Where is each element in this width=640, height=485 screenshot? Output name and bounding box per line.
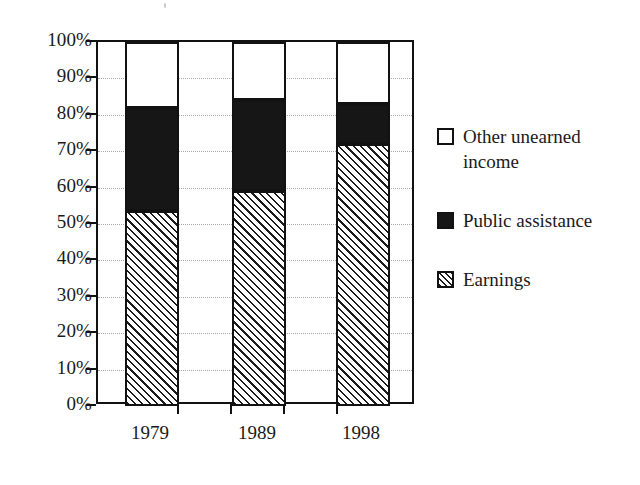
bar-segment-public-assistance-1998 bbox=[336, 104, 390, 144]
chart-legend: Other unearned income Public assistance … bbox=[437, 124, 637, 306]
y-axis-tick-label: 20% bbox=[22, 321, 92, 340]
scan-artifact-speck bbox=[164, 3, 166, 8]
bar-segment-other-unearned-income-1979 bbox=[125, 42, 179, 108]
x-axis-tick-mark bbox=[230, 404, 232, 414]
y-axis-tick-label: 50% bbox=[22, 212, 92, 231]
y-axis-tick-label: 10% bbox=[22, 358, 92, 377]
legend-swatch-earnings-icon bbox=[437, 271, 454, 288]
bar-segment-public-assistance-1979 bbox=[125, 108, 179, 212]
stacked-bar-chart: 100%90%80%70%60%50%40%30%20%10%0% 197919… bbox=[0, 0, 640, 485]
legend-item-earnings[interactable]: Earnings bbox=[437, 267, 637, 292]
bar-segment-earnings-1998 bbox=[336, 144, 390, 406]
y-axis-tick-label: 70% bbox=[22, 139, 92, 158]
x-axis-tick-label: 1989 bbox=[212, 422, 302, 444]
y-axis-tick-mark bbox=[86, 222, 96, 224]
bar-segment-earnings-1989 bbox=[232, 191, 286, 406]
y-axis-tick-mark bbox=[86, 368, 96, 370]
x-axis-tick-mark bbox=[283, 404, 285, 414]
y-axis-tick-mark bbox=[86, 186, 96, 188]
y-axis-tick-label: 0% bbox=[22, 394, 92, 413]
legend-label-other-unearned-income: Other unearned income bbox=[463, 124, 628, 174]
legend-item-public-assistance[interactable]: Public assistance bbox=[437, 208, 637, 233]
y-axis-tick-mark bbox=[86, 331, 96, 333]
legend-label-public-assistance: Public assistance bbox=[463, 208, 592, 233]
bar-1979 bbox=[125, 42, 179, 406]
bar-segment-earnings-1979 bbox=[125, 211, 179, 406]
y-axis-tick-label: 60% bbox=[22, 176, 92, 195]
y-axis-tick-mark bbox=[86, 113, 96, 115]
x-axis-tick-mark bbox=[177, 404, 179, 414]
bar-segment-other-unearned-income-1998 bbox=[336, 42, 390, 104]
bar-segment-public-assistance-1989 bbox=[232, 100, 286, 191]
y-axis-tick-label: 40% bbox=[22, 248, 92, 267]
y-axis-tick-mark bbox=[86, 149, 96, 151]
x-axis-tick-mark bbox=[336, 404, 338, 414]
legend-label-earnings: Earnings bbox=[463, 267, 531, 292]
x-axis-tick-label: 1979 bbox=[105, 422, 195, 444]
y-axis-tick-label: 90% bbox=[22, 66, 92, 85]
bar-segment-other-unearned-income-1989 bbox=[232, 42, 286, 100]
y-axis-tick-mark bbox=[86, 40, 96, 42]
plot-area bbox=[96, 40, 414, 404]
y-axis-tick-label: 80% bbox=[22, 103, 92, 122]
bar-1998 bbox=[336, 42, 390, 406]
bar-1989 bbox=[232, 42, 286, 406]
y-axis-tick-label: 100% bbox=[22, 30, 92, 49]
y-axis-tick-mark bbox=[86, 295, 96, 297]
legend-swatch-other-unearned-income-icon bbox=[437, 128, 454, 145]
y-axis-tick-mark bbox=[86, 76, 96, 78]
y-axis-tick-mark bbox=[86, 404, 96, 406]
legend-item-other-unearned-income[interactable]: Other unearned income bbox=[437, 124, 637, 174]
legend-swatch-public-assistance-icon bbox=[437, 212, 454, 229]
y-axis-tick-label: 30% bbox=[22, 285, 92, 304]
y-axis-tick-mark bbox=[86, 258, 96, 260]
x-axis-tick-label: 1998 bbox=[316, 422, 406, 444]
